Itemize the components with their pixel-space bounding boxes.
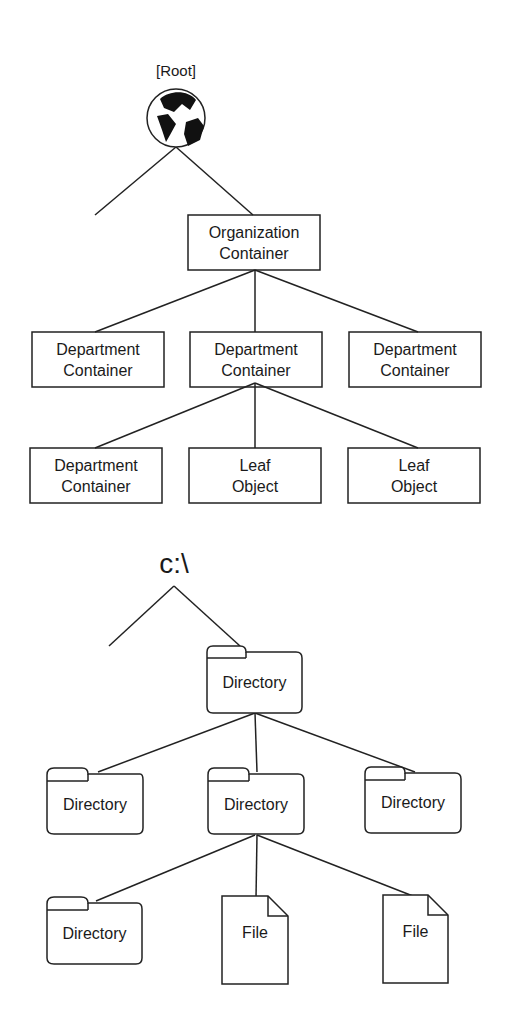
node-line1: Department <box>54 457 138 474</box>
dept-container-node: DepartmentContainer <box>190 339 322 381</box>
node-line1: Department <box>56 341 140 358</box>
directory-node: Directory <box>47 794 143 815</box>
leaf-object-node: LeafObject <box>348 455 480 497</box>
node-line2: Object <box>391 478 437 495</box>
globe-icon <box>147 89 205 147</box>
diagram-canvas <box>0 0 505 1016</box>
node-line1: Organization <box>209 224 300 241</box>
node-line2: Container <box>221 362 290 379</box>
dept-container-node: DepartmentContainer <box>349 339 481 381</box>
leaf-object-node: LeafObject <box>189 455 321 497</box>
directory-node: Directory <box>207 672 302 693</box>
file-node: File <box>383 921 448 942</box>
drive-root-label: c:\ <box>134 548 214 580</box>
node-line2: Container <box>61 478 130 495</box>
node-line2: Container <box>380 362 449 379</box>
node-line1: Leaf <box>398 457 429 474</box>
dept-container-node: DepartmentContainer <box>32 339 164 381</box>
node-line2: Container <box>63 362 132 379</box>
org-container-node: OrganizationContainer <box>188 222 320 264</box>
node-line2: Container <box>219 245 288 262</box>
root-label: [Root] <box>136 60 216 81</box>
directory-node: Directory <box>208 794 304 815</box>
node-line1: Department <box>373 341 457 358</box>
file-node: File <box>222 922 288 943</box>
node-line2: Object <box>232 478 278 495</box>
directory-node: Directory <box>365 792 461 813</box>
node-line1: Leaf <box>239 457 270 474</box>
directory-node: Directory <box>47 923 142 944</box>
dept-container-node: DepartmentContainer <box>30 455 162 497</box>
node-line1: Department <box>214 341 298 358</box>
